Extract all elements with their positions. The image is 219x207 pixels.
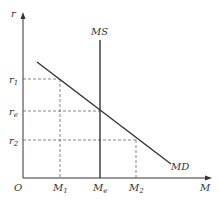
money-market-diagram: r O M MS MD r1 re r2 M1 Me M2 xyxy=(0,0,219,207)
origin-label: O xyxy=(14,182,22,193)
md-label: MD xyxy=(170,161,189,172)
m2-label: M2 xyxy=(128,182,144,195)
ms-label: MS xyxy=(90,26,108,37)
r1-label: r1 xyxy=(9,74,18,87)
y-axis-label: r xyxy=(11,8,17,19)
x-axis-arrow-icon xyxy=(205,176,212,181)
m1-label: M1 xyxy=(52,182,68,195)
money-demand-line xyxy=(37,62,171,164)
me-label: Me xyxy=(92,182,107,195)
x-axis-label: M xyxy=(199,182,211,193)
r2-label: r2 xyxy=(9,135,19,148)
re-label: re xyxy=(9,106,18,119)
y-axis-arrow-icon xyxy=(21,12,26,19)
